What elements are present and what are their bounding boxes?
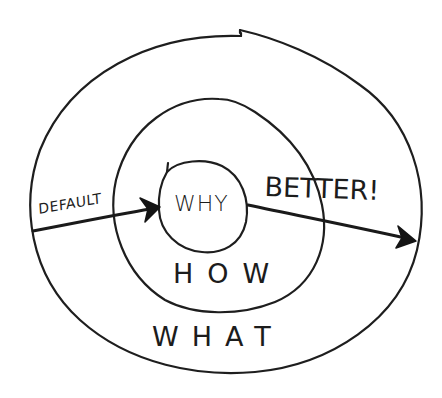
how-label: HOW xyxy=(173,260,283,287)
better-label: BETTER! xyxy=(264,173,380,204)
better-arrow xyxy=(248,205,416,248)
what-label: WHAT xyxy=(152,323,284,350)
why-label: WHY xyxy=(174,193,229,215)
